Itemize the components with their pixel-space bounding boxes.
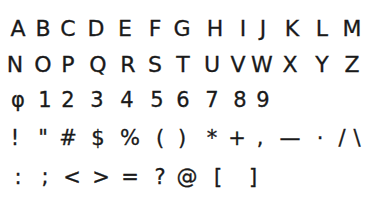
glyph: : [14,167,21,188]
glyph: H [207,18,224,40]
glyph: = [121,167,139,188]
glyph: 9 [256,90,269,111]
handwriting-sample-sheet: A B C D E F G H I J K L M N O P Q R S T … [0,0,374,200]
glyph: # [59,128,77,149]
glyph: % [120,128,140,149]
glyph: [ [214,167,222,188]
glyph: $ [91,128,104,149]
glyph: @ [177,167,198,188]
glyph: T [176,54,189,76]
glyph: R [120,54,135,76]
glyph: 5 [150,90,163,111]
glyph: φ [11,90,25,111]
glyph: U [204,54,220,76]
glyph: + [228,128,246,149]
glyph: C [60,18,75,40]
glyph: — [280,128,301,149]
glyph: ! [11,128,19,149]
glyph: W [251,54,273,76]
glyph: P [61,54,74,76]
glyph: A [10,18,25,40]
glyph: 6 [176,90,189,111]
glyph: · [317,128,324,149]
glyph: 2 [61,90,74,111]
glyph: < [63,167,81,188]
glyph: N [7,54,23,76]
glyph: J [260,18,267,40]
glyph: > [92,167,110,188]
glyph: G [173,18,190,40]
glyph: F [149,18,162,40]
glyph: E [118,18,132,40]
glyph: Y [315,54,328,76]
glyph: 1 [38,90,51,111]
glyph: * [207,128,218,149]
glyph: 7 [205,90,218,111]
glyph: B [35,18,50,40]
glyph: 4 [120,90,133,111]
glyph: / [338,128,345,149]
glyph: V [230,54,245,76]
glyph: ? [154,167,165,188]
glyph: 3 [90,90,103,111]
glyph: I [240,18,247,40]
glyph: X [282,54,297,76]
glyph: " [38,128,48,149]
glyph: , [257,128,264,149]
glyph: O [34,54,51,76]
glyph: L [316,18,328,40]
glyph: Z [344,54,359,76]
glyph: ; [41,167,48,188]
glyph: K [285,18,299,40]
glyph: M [343,18,362,40]
glyph: ) [178,128,186,149]
glyph: ( [156,128,164,149]
glyph: Q [89,54,106,76]
glyph: \ [353,128,360,149]
glyph: S [148,54,162,76]
glyph: 8 [233,90,246,111]
glyph: D [88,18,105,40]
glyph: ] [249,167,257,188]
